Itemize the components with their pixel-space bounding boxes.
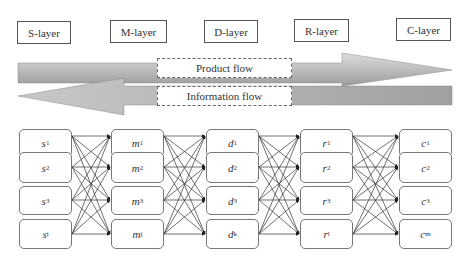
node-c-m: cm xyxy=(399,219,452,249)
node-s-2: s2 xyxy=(19,152,72,183)
node-c-3: c3 xyxy=(399,186,452,215)
node-s-3: s3 xyxy=(19,186,72,215)
node-d-k: dk xyxy=(206,219,259,249)
node-c-2: c2 xyxy=(399,152,452,183)
node-r-l: rl xyxy=(300,219,353,249)
node-s-i: si xyxy=(19,219,72,249)
node-r-3: r3 xyxy=(300,186,353,215)
node-m-3: m3 xyxy=(111,186,164,215)
node-d-2: d2 xyxy=(206,152,259,183)
node-d-3: d3 xyxy=(206,186,259,215)
product-flow-label: Product flow xyxy=(157,58,292,78)
information-flow-label: Information flow xyxy=(157,86,292,106)
node-m-2: m2 xyxy=(111,152,164,183)
node-r-2: r2 xyxy=(300,152,353,183)
node-m-j: mj xyxy=(111,219,164,249)
